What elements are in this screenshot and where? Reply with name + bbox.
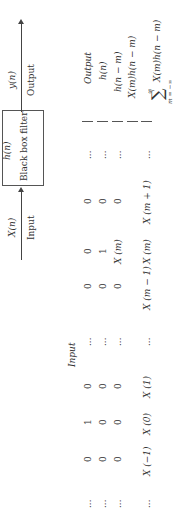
cell: ... — [143, 150, 152, 159]
cell: ... — [114, 150, 123, 159]
filter-label: Black box filter — [20, 112, 29, 181]
convolution-sum: X(m)h(n − m) — [153, 20, 162, 82]
output-signal-label: y(n) — [8, 71, 17, 89]
cell: ... — [84, 499, 93, 508]
cell: 0 — [114, 283, 123, 289]
cell: 0 — [84, 456, 93, 462]
input-arrow-line — [21, 190, 22, 260]
cell: 0 — [99, 198, 108, 204]
output-label: Output — [27, 64, 36, 96]
cell: ... — [99, 337, 108, 346]
cell: X (0) — [143, 413, 152, 435]
sum-lower-limit: m = −∞ — [167, 79, 173, 104]
separator — [127, 121, 138, 122]
cell: ... — [84, 150, 93, 159]
row-result: h(n) — [99, 61, 108, 80]
cell: X (m) — [114, 239, 123, 264]
separator — [141, 121, 152, 122]
cell: ... — [143, 499, 152, 508]
separator — [112, 121, 123, 122]
row-result: X(m)h(n − m) — [128, 36, 137, 98]
cell: 0 — [114, 456, 123, 462]
cell: ... — [99, 499, 108, 508]
cell: ... — [99, 150, 108, 159]
cell: X (1) — [143, 376, 152, 398]
output-arrow-head — [18, 19, 24, 24]
cell: X (−1) — [143, 446, 152, 476]
cell: 0 — [99, 456, 108, 462]
input-header: Input — [68, 342, 77, 367]
cell: 0 — [114, 198, 123, 204]
input-signal-label: X(n) — [8, 218, 17, 237]
cell: ... — [143, 337, 152, 346]
cell: ... — [114, 499, 123, 508]
cell: 0 — [99, 419, 108, 425]
cell: 0 — [99, 383, 108, 389]
cell: 0 — [84, 383, 93, 389]
input-arrow-head — [18, 187, 24, 192]
rotated-figure: X(n) Input h(n) Black box filter y(n) Ou… — [0, 0, 177, 522]
separator — [97, 121, 108, 122]
cell: 1 — [99, 248, 108, 254]
cell: X (m − 1) — [143, 266, 152, 310]
cell: ... — [114, 337, 123, 346]
cell: 0 — [84, 248, 93, 254]
cell: 0 — [114, 419, 123, 425]
cell: X (m) — [143, 239, 152, 264]
separator — [82, 121, 93, 122]
cell: 0 — [84, 198, 93, 204]
cell: 0 — [99, 283, 108, 289]
input-label: Input — [27, 215, 36, 240]
cell: ... — [84, 337, 93, 346]
output-arrow-line — [21, 22, 22, 112]
cell: 0 — [114, 383, 123, 389]
cell: X (m + 1) — [143, 180, 152, 224]
filter-response-label: h(n) — [3, 141, 12, 160]
row-result: Output — [84, 52, 93, 84]
cell: 1 — [84, 419, 93, 425]
cell: 0 — [84, 283, 93, 289]
row-result: h(n − m) — [114, 52, 123, 92]
sum-symbol: ∑ — [150, 89, 166, 100]
